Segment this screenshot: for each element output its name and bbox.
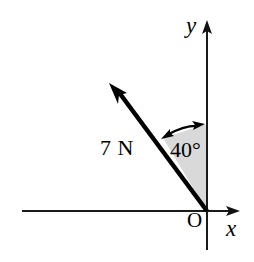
y-axis-label: y: [186, 14, 196, 37]
origin-label: O: [187, 210, 202, 231]
force-vector-diagram: y x O 7 N 40°: [0, 0, 254, 262]
diagram-canvas: [0, 0, 254, 262]
angle-value-label: 40°: [170, 139, 201, 161]
force-magnitude-label: 7 N: [100, 137, 134, 159]
x-axis-label: x: [226, 217, 236, 240]
